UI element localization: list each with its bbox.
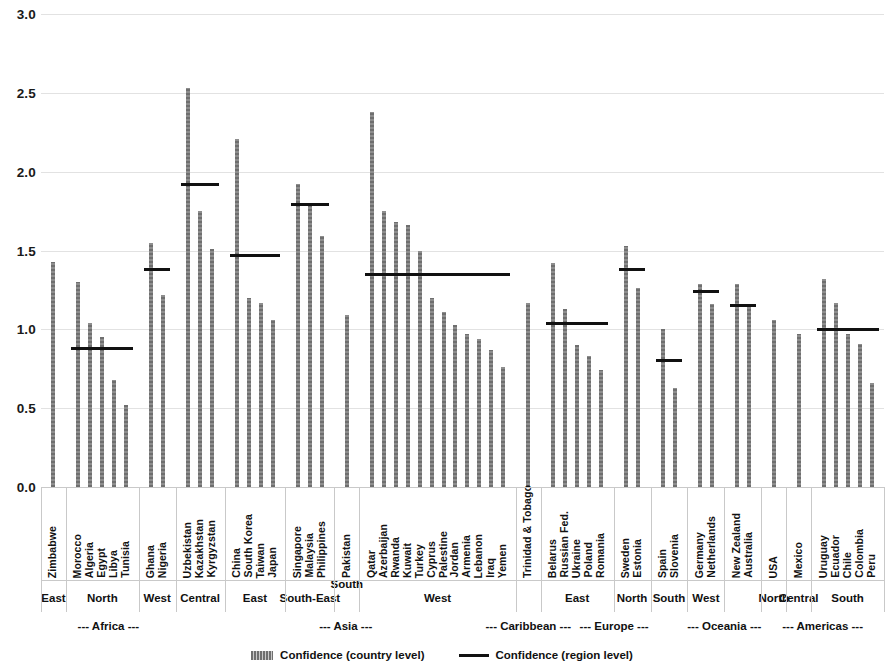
country-label: Romania — [595, 533, 606, 578]
legend-item: Confidence (region level) — [459, 649, 633, 661]
continent-label: --- Africa --- — [38, 620, 178, 632]
y-tick-label: 0.5 — [2, 401, 36, 416]
country-label: Ecuador — [830, 535, 841, 578]
country-label: Japan — [267, 547, 278, 578]
region-level-line — [291, 203, 329, 206]
country-label: Uruguay — [818, 535, 829, 578]
country-label: Zimbabwe — [47, 526, 58, 578]
y-axis: 0.00.51.01.52.02.53.0 — [0, 0, 36, 500]
region-level-line — [144, 268, 170, 271]
country-label: Lebanon — [473, 534, 484, 578]
country-label: Belarus — [547, 539, 558, 578]
group-separator — [285, 487, 286, 612]
group-separator — [334, 487, 335, 612]
country-label: Algeria — [84, 542, 95, 578]
country-label: Colombia — [854, 529, 865, 578]
country-label: Pakistan — [341, 534, 352, 578]
country-label: Chile — [842, 552, 853, 578]
country-label: Sweden — [620, 538, 631, 578]
group-separator — [139, 487, 140, 612]
country-label: Spain — [657, 549, 668, 578]
country-label: Libya — [108, 550, 119, 578]
country-label: Azerbaijan — [378, 524, 389, 578]
country-label: Turkey — [414, 544, 425, 578]
country-label: Rwanda — [390, 537, 401, 578]
group-separator — [225, 487, 226, 612]
country-label: Kuwait — [402, 543, 413, 578]
country-label: New Zealand — [731, 513, 742, 578]
country-label: Estonia — [632, 539, 643, 578]
subregion-label: West — [393, 592, 483, 604]
group-separator — [811, 487, 812, 612]
chart-legend: Confidence (country level)Confidence (re… — [0, 645, 884, 665]
region-level-line — [817, 328, 879, 331]
region-level-line — [71, 347, 133, 350]
region-level-line — [230, 254, 280, 257]
country-label: Morocco — [72, 534, 83, 578]
region-level-line — [656, 359, 682, 362]
subregion-label: South-East — [265, 592, 355, 604]
country-label: Armenia — [461, 535, 472, 578]
country-label: Ghana — [145, 545, 156, 578]
group-separator — [761, 487, 762, 612]
group-separator — [786, 487, 787, 612]
country-label: Germany — [694, 532, 705, 578]
y-tick-label: 2.5 — [2, 85, 36, 100]
y-tick-label: 3.0 — [2, 7, 36, 22]
region-level-line — [181, 183, 219, 186]
country-label: Egypt — [96, 548, 107, 578]
group-separator — [41, 487, 42, 612]
country-label: Russian Fed. — [559, 511, 570, 578]
legend-label: Confidence (region level) — [496, 649, 633, 661]
country-label: Mexico — [793, 542, 804, 578]
continent-axis-labels: --- Africa ------ Asia ------ Caribbean … — [41, 620, 884, 640]
country-label: Malaysia — [304, 533, 315, 578]
label-band-bottom-rule — [41, 580, 884, 581]
country-label: Kazakhstan — [194, 519, 205, 578]
country-label: Iraq — [485, 558, 496, 578]
region-level-line — [365, 273, 511, 276]
country-label: Slovenia — [669, 534, 680, 578]
y-tick-label: 1.0 — [2, 322, 36, 337]
country-label: Jordan — [449, 542, 460, 578]
country-label: Qatar — [366, 550, 377, 578]
country-label: Tunisia — [120, 541, 131, 578]
legend-item: Confidence (country level) — [251, 649, 424, 661]
country-label: Australia — [743, 532, 754, 578]
region-level-line — [730, 304, 756, 307]
region-level-line — [693, 290, 719, 293]
country-label: Yemen — [497, 544, 508, 578]
country-label: Uzbekistan — [182, 522, 193, 578]
group-separator — [176, 487, 177, 612]
group-separator — [614, 487, 615, 612]
country-label: Peru — [866, 554, 877, 578]
y-tick-label: 2.0 — [2, 164, 36, 179]
country-label: South Korea — [243, 514, 254, 578]
region-lines-layer — [41, 14, 884, 487]
y-tick-label: 1.5 — [2, 243, 36, 258]
subregion-axis-labels: EastNorthWestCentralEastSouth-EastSouthW… — [41, 592, 884, 612]
group-separator — [687, 487, 688, 612]
country-label: Netherlands — [706, 516, 717, 578]
group-separator — [541, 487, 542, 612]
continent-label: --- Americas --- — [753, 620, 889, 632]
country-label: China — [231, 548, 242, 578]
country-label: Singapore — [292, 526, 303, 578]
country-label: Palestine — [438, 531, 449, 578]
country-label: Ukraine — [571, 539, 582, 578]
country-label: Nigeria — [157, 542, 168, 578]
region-level-line — [619, 268, 645, 271]
y-tick-label: 0.0 — [2, 480, 36, 495]
group-separator — [651, 487, 652, 612]
country-label: Kyrgyzstan — [206, 520, 217, 578]
country-label: Poland — [583, 542, 594, 578]
legend-bar-swatch-icon — [251, 651, 273, 660]
group-separator — [359, 487, 360, 612]
country-label: Taiwan — [255, 543, 266, 578]
group-separator — [516, 487, 517, 612]
group-separator — [66, 487, 67, 612]
legend-line-swatch-icon — [459, 654, 489, 657]
country-label: Cyprus — [426, 541, 437, 578]
country-label: USA — [768, 556, 779, 578]
subregion-label: South — [803, 592, 889, 604]
